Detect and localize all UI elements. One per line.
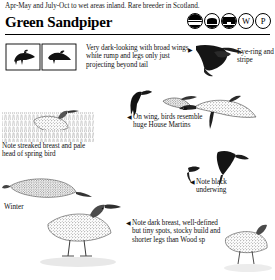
annotation-flight-comparison-arrow-icon: ◀ <box>127 114 132 120</box>
season-passage-icon: P <box>255 13 271 29</box>
standing-bird-right <box>224 225 272 272</box>
page-title: Green Sandpiper <box>5 14 112 31</box>
continuation-text: Apr-May and July-Oct to wet areas inland… <box>5 2 270 11</box>
flying-bird-head-detail <box>214 51 231 57</box>
perched-bird-silhouette-left <box>6 44 40 70</box>
header-divider <box>5 34 270 35</box>
standing-bird-reeds <box>2 110 94 142</box>
season-winter-label: W <box>239 14 253 28</box>
standing-bird-winter <box>2 179 92 198</box>
status-icon-group: W P <box>187 13 271 29</box>
annotation-flight-comparison: On wing, birds resemble huge House Marti… <box>133 113 205 130</box>
season-passage-label: P <box>256 14 270 28</box>
field-guide-page: Apr-May and July-Oct to wet areas inland… <box>0 0 275 280</box>
season-winter-icon: W <box>238 13 254 29</box>
flying-bird-small-right <box>163 96 197 108</box>
habitat-estuary-icon <box>204 13 220 29</box>
flying-bird-upper <box>196 45 243 76</box>
habitat-woodland-icon <box>221 13 237 29</box>
annotation-flight-profile: Very dark-looking with broad wings, whit… <box>86 44 194 69</box>
plate-label-winter: Winter <box>4 203 24 211</box>
annotation-head-detail: Eye-ring and stripe <box>237 48 275 65</box>
annotation-standing-bird: Note dark breast, well-defined but tiny … <box>132 219 224 244</box>
standing-bird-spring <box>40 205 121 267</box>
annotation-underwing: Note black underwing <box>196 178 258 195</box>
habitat-coast-icon <box>187 13 203 29</box>
annotation-standing-bird-arrow-icon: ◀ <box>126 220 131 226</box>
annotation-spring-plumage: Note streaked breast and pale head of sp… <box>2 142 88 159</box>
annotation-flight-profile-arrow-icon: ▶ <box>188 47 193 53</box>
perched-bird-silhouette-right <box>42 44 76 70</box>
annotation-underwing-arrow-icon: ◀ <box>190 179 195 185</box>
